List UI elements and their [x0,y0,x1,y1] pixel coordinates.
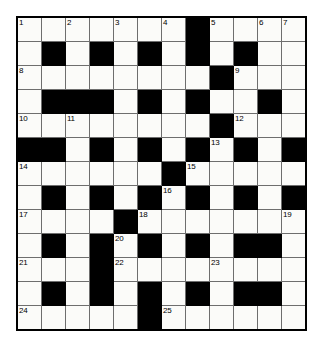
crossword-open-cell[interactable] [258,114,282,138]
crossword-open-cell[interactable]: 14 [17,162,42,186]
crossword-open-cell[interactable]: 22 [114,258,138,282]
crossword-open-cell[interactable]: 6 [258,17,282,42]
crossword-open-cell[interactable] [258,258,282,282]
crossword-open-cell[interactable]: 12 [234,114,258,138]
crossword-open-cell[interactable] [66,258,90,282]
crossword-open-cell[interactable] [138,258,162,282]
crossword-open-cell[interactable] [282,90,307,114]
crossword-open-cell[interactable] [186,66,210,90]
crossword-open-cell[interactable]: 19 [282,210,307,234]
crossword-open-cell[interactable] [162,114,186,138]
crossword-open-cell[interactable] [162,210,186,234]
crossword-open-cell[interactable]: 10 [17,114,42,138]
crossword-open-cell[interactable] [90,210,114,234]
crossword-open-cell[interactable] [162,282,186,306]
crossword-open-cell[interactable] [234,162,258,186]
crossword-open-cell[interactable] [258,306,282,331]
crossword-open-cell[interactable] [186,306,210,331]
crossword-open-cell[interactable] [66,234,90,258]
crossword-open-cell[interactable] [90,114,114,138]
crossword-open-cell[interactable]: 24 [17,306,42,331]
crossword-open-cell[interactable] [282,162,307,186]
crossword-open-cell[interactable]: 23 [210,258,234,282]
crossword-open-cell[interactable] [282,282,307,306]
crossword-open-cell[interactable] [234,17,258,42]
crossword-open-cell[interactable] [186,210,210,234]
crossword-open-cell[interactable]: 9 [234,66,258,90]
crossword-open-cell[interactable] [42,17,66,42]
crossword-open-cell[interactable] [66,306,90,331]
crossword-open-cell[interactable] [258,186,282,210]
crossword-open-cell[interactable]: 3 [114,17,138,42]
crossword-open-cell[interactable]: 17 [17,210,42,234]
crossword-open-cell[interactable]: 2 [66,17,90,42]
crossword-open-cell[interactable] [210,90,234,114]
crossword-open-cell[interactable] [66,66,90,90]
crossword-open-cell[interactable]: 8 [17,66,42,90]
crossword-open-cell[interactable] [114,186,138,210]
crossword-open-cell[interactable] [17,90,42,114]
crossword-open-cell[interactable] [282,66,307,90]
crossword-open-cell[interactable]: 1 [17,17,42,42]
crossword-open-cell[interactable] [114,66,138,90]
crossword-open-cell[interactable] [282,306,307,331]
crossword-open-cell[interactable]: 15 [186,162,210,186]
crossword-open-cell[interactable] [90,162,114,186]
crossword-open-cell[interactable] [162,42,186,66]
crossword-open-cell[interactable] [114,114,138,138]
crossword-open-cell[interactable] [210,306,234,331]
crossword-open-cell[interactable] [210,42,234,66]
crossword-open-cell[interactable]: 21 [17,258,42,282]
crossword-open-cell[interactable]: 5 [210,17,234,42]
crossword-open-cell[interactable]: 7 [282,17,307,42]
crossword-open-cell[interactable] [162,234,186,258]
crossword-open-cell[interactable] [66,282,90,306]
crossword-open-cell[interactable] [282,114,307,138]
crossword-open-cell[interactable] [17,282,42,306]
crossword-open-cell[interactable] [234,210,258,234]
crossword-open-cell[interactable] [210,282,234,306]
crossword-open-cell[interactable] [66,138,90,162]
crossword-open-cell[interactable]: 4 [162,17,186,42]
crossword-open-cell[interactable] [258,42,282,66]
crossword-open-cell[interactable] [90,66,114,90]
crossword-open-cell[interactable]: 25 [162,306,186,331]
crossword-open-cell[interactable]: 18 [138,210,162,234]
crossword-open-cell[interactable] [210,234,234,258]
crossword-open-cell[interactable] [282,42,307,66]
crossword-open-cell[interactable] [66,162,90,186]
crossword-open-cell[interactable] [90,306,114,331]
crossword-open-cell[interactable] [66,210,90,234]
crossword-open-cell[interactable] [210,162,234,186]
crossword-open-cell[interactable] [258,210,282,234]
crossword-open-cell[interactable] [186,258,210,282]
crossword-open-cell[interactable] [114,162,138,186]
crossword-open-cell[interactable] [42,210,66,234]
crossword-open-cell[interactable] [114,138,138,162]
crossword-open-cell[interactable]: 13 [210,138,234,162]
crossword-open-cell[interactable] [258,138,282,162]
crossword-open-cell[interactable] [210,186,234,210]
crossword-open-cell[interactable] [258,162,282,186]
crossword-open-cell[interactable] [17,234,42,258]
crossword-open-cell[interactable] [17,42,42,66]
crossword-open-cell[interactable] [258,66,282,90]
crossword-open-cell[interactable] [234,258,258,282]
crossword-open-cell[interactable] [42,306,66,331]
crossword-open-cell[interactable] [66,186,90,210]
crossword-open-cell[interactable] [138,17,162,42]
crossword-open-cell[interactable] [17,186,42,210]
crossword-open-cell[interactable] [210,210,234,234]
crossword-open-cell[interactable]: 20 [114,234,138,258]
crossword-open-cell[interactable] [138,162,162,186]
crossword-open-cell[interactable] [42,162,66,186]
crossword-open-cell[interactable] [234,306,258,331]
crossword-open-cell[interactable] [186,114,210,138]
crossword-open-cell[interactable] [282,234,307,258]
crossword-open-cell[interactable] [42,66,66,90]
crossword-open-cell[interactable] [282,258,307,282]
crossword-open-cell[interactable] [114,306,138,331]
crossword-open-cell[interactable] [138,66,162,90]
crossword-open-cell[interactable] [66,42,90,66]
crossword-grid[interactable]: 1234567891011121314151617181920212223242… [16,16,307,331]
